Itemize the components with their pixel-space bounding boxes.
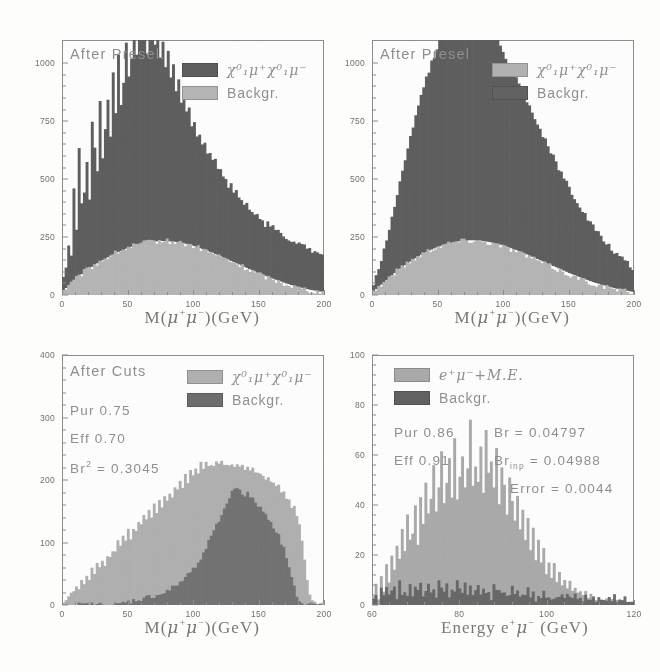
y-tick-mark-minor xyxy=(372,445,376,446)
x-tick-mark-minor xyxy=(542,292,543,295)
y-tick-mark-minor xyxy=(372,395,376,396)
y-tick-mark-minor xyxy=(372,525,376,526)
x-tick-label: 100 xyxy=(495,295,510,309)
y-tick-label: 100 xyxy=(40,538,62,548)
stat-br-inp-label: Br xyxy=(494,453,510,468)
panel-top-right: After Presel χ⁰₁μ⁺χ⁰₁μ⁻ Backgr. M(μ+μ−)(… xyxy=(372,40,634,295)
stat-br-squared-label: Br xyxy=(70,461,86,476)
x-tick-mark xyxy=(259,290,260,295)
x-tick-label: 0 xyxy=(59,605,64,619)
x-tick-mark-minor xyxy=(101,292,102,295)
x-tick-mark-minor xyxy=(311,602,312,605)
y-tick-mark xyxy=(62,63,68,64)
y-tick-mark xyxy=(372,455,378,456)
panel-title-bl: After Cuts xyxy=(70,363,146,379)
y-tick-label: 250 xyxy=(350,232,372,242)
legend-label-background-br: Backgr. xyxy=(439,390,491,406)
y-tick-mark-minor xyxy=(372,385,376,386)
x-tick-label: 200 xyxy=(316,295,331,309)
x-tick-label: 100 xyxy=(185,295,200,309)
x-tick-mark-minor xyxy=(245,602,246,605)
panel-top-left: After Presel. χ⁰₁μ⁺χ⁰₁μ⁻ Backgr. M(μ+μ−)… xyxy=(62,40,324,295)
x-tick-mark-minor xyxy=(490,292,491,295)
legend-swatch-signal-tr xyxy=(492,63,528,77)
x-tick-mark-minor xyxy=(407,602,408,605)
stat-efficiency-br: Eff 0.91 xyxy=(394,453,450,468)
x-tick-mark-minor xyxy=(617,602,618,605)
x-tick-mark-minor xyxy=(88,602,89,605)
x-tick-mark xyxy=(62,290,63,295)
x-tick-mark-minor xyxy=(477,292,478,295)
legend-swatch-signal-br xyxy=(394,368,430,382)
x-tick-label: 150 xyxy=(251,605,266,619)
x-tick-mark xyxy=(193,290,194,295)
y-tick-label: 100 xyxy=(350,350,372,360)
y-tick-mark xyxy=(372,405,378,406)
physics-histogram-figure: After Presel. χ⁰₁μ⁺χ⁰₁μ⁻ Backgr. M(μ+μ−)… xyxy=(0,0,660,672)
y-tick-label: 200 xyxy=(40,475,62,485)
x-tick-mark-minor xyxy=(411,292,412,295)
x-tick-mark-minor xyxy=(389,602,390,605)
x-tick-mark-minor xyxy=(141,602,142,605)
y-tick-mark-minor xyxy=(372,225,376,226)
x-tick-mark-minor xyxy=(595,292,596,295)
x-tick-mark xyxy=(324,290,325,295)
x-tick-mark-minor xyxy=(398,292,399,295)
y-tick-mark-minor xyxy=(372,86,376,87)
y-tick-label: 1000 xyxy=(35,58,62,68)
y-tick-mark-minor xyxy=(372,435,376,436)
y-tick-mark-minor xyxy=(372,475,376,476)
x-tick-mark-minor xyxy=(621,292,622,295)
x-tick-mark xyxy=(372,600,373,605)
y-tick-mark-minor xyxy=(62,86,66,87)
y-tick-label: 80 xyxy=(355,400,372,410)
y-tick-mark xyxy=(372,179,378,180)
x-tick-label: 100 xyxy=(539,605,554,619)
x-tick-mark xyxy=(459,600,460,605)
x-tick-mark-minor xyxy=(424,292,425,295)
x-tick-mark-minor xyxy=(582,292,583,295)
x-tick-label: 50 xyxy=(432,295,442,309)
y-tick-mark-minor xyxy=(62,405,66,406)
x-tick-mark xyxy=(547,600,548,605)
x-tick-mark xyxy=(438,290,439,295)
y-tick-mark-minor xyxy=(62,144,66,145)
x-tick-mark-minor xyxy=(101,602,102,605)
y-tick-mark-minor xyxy=(62,248,66,249)
x-tick-mark-minor xyxy=(114,292,115,295)
y-tick-mark-minor xyxy=(62,455,66,456)
stat-br-inp-subscript: inp xyxy=(510,461,525,471)
x-tick-mark-minor xyxy=(516,292,517,295)
x-tick-mark-minor xyxy=(298,602,299,605)
legend-tr: χ⁰₁μ⁺χ⁰₁μ⁻ Backgr. xyxy=(492,62,617,108)
x-tick-mark-minor xyxy=(582,602,583,605)
legend-label-background-bl: Backgr. xyxy=(232,392,284,408)
y-tick-mark-minor xyxy=(372,213,376,214)
x-tick-label: 100 xyxy=(185,605,200,619)
y-tick-label: 20 xyxy=(355,550,372,560)
x-tick-mark-minor xyxy=(154,602,155,605)
legend-row-background-bl: Backgr. xyxy=(187,392,312,408)
y-tick-mark-minor xyxy=(62,505,66,506)
stat-br-br: Br = 0.04797 xyxy=(494,425,586,440)
y-tick-mark xyxy=(372,355,378,356)
y-tick-mark xyxy=(62,355,68,356)
x-tick-mark-minor xyxy=(167,602,168,605)
x-tick-mark-minor xyxy=(167,292,168,295)
y-tick-mark-minor xyxy=(372,74,376,75)
y-tick-mark-minor xyxy=(62,517,66,518)
y-tick-mark-minor xyxy=(62,530,66,531)
y-tick-mark-minor xyxy=(62,190,66,191)
x-axis-label-bl: M(μ+μ−)(GeV) xyxy=(145,617,260,638)
x-tick-label: 0 xyxy=(59,295,64,309)
x-tick-mark-minor xyxy=(285,292,286,295)
x-tick-mark xyxy=(503,290,504,295)
x-tick-mark-minor xyxy=(608,292,609,295)
y-tick-label: 500 xyxy=(40,174,62,184)
y-tick-mark xyxy=(372,505,378,506)
y-tick-mark xyxy=(62,480,68,481)
x-tick-mark-minor xyxy=(219,292,220,295)
y-tick-mark-minor xyxy=(372,202,376,203)
y-tick-label: 1000 xyxy=(345,58,372,68)
y-tick-mark xyxy=(372,237,378,238)
